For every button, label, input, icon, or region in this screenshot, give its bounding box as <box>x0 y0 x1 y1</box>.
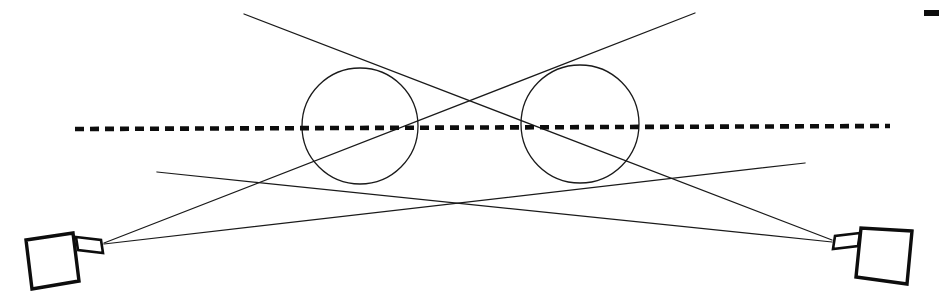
left-camera <box>26 233 103 289</box>
ray-right-to-lower-left <box>157 172 832 242</box>
right-camera-lens-barrel <box>833 233 860 249</box>
right-camera <box>833 228 912 284</box>
optical-axis-dashed-line <box>75 126 890 129</box>
left-camera-body <box>26 233 79 289</box>
scene-svg <box>0 0 939 308</box>
left-camera-lens-barrel <box>76 237 103 253</box>
right-lens-circle <box>521 65 639 183</box>
right-camera-body <box>856 228 912 284</box>
corner-registration-mark <box>924 10 939 16</box>
ray-left-to-lower-right <box>104 163 805 244</box>
optical-diagram-canvas <box>0 0 939 308</box>
